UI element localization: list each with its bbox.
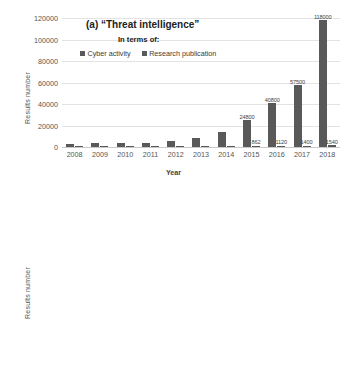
x-axis-tick-label: 2012 [163,150,188,159]
bar-group [62,18,87,147]
bar-cyber-activity [66,144,74,147]
bar-group: 24800862 [239,18,264,147]
x-axis-tick-label: 2013 [188,150,213,159]
y-axis-tick-label: 60000 [38,78,58,87]
legend-label: Research publication [149,49,216,58]
bar-value-label: 40800 [265,97,280,103]
legend-item: Cyber activity [80,49,131,58]
legend-swatch-icon [142,51,147,56]
bar-research-publication [227,146,235,147]
bar-research-publication: 862 [252,146,260,147]
bar-research-publication [100,146,108,147]
y-axis-tick-label: 0 [54,143,58,152]
y-axis-tick-label: 80000 [38,57,58,66]
bar-research-publication: 1540 [328,145,336,147]
plot-area-b: Results number 0200040006000800010000120… [0,195,347,390]
y-axis-tick-label: 120000 [34,14,58,23]
y-axis-tick-label: 100000 [34,35,58,44]
x-axis-tick-label: 2010 [113,150,138,159]
bar-cyber-activity: 24800 [243,120,251,147]
bars-region-a: 248008624080011205750014001180001540 [62,18,340,147]
gridline [62,147,340,148]
chart-title-a: (a) “Threat intelligence” [86,19,199,30]
legend-swatch-icon [80,51,85,56]
x-axis-ticks-a: 2008200920102011201220132014201520162017… [62,150,340,159]
x-axis-tick-label: 2018 [315,150,340,159]
bar-cyber-activity [142,143,150,148]
x-axis-tick-label: 2016 [264,150,289,159]
bar-value-label: 57500 [290,79,305,85]
bar-cyber-activity [192,138,200,147]
x-axis-tick-label: 2009 [87,150,112,159]
bar-cyber-activity [218,132,226,147]
bar-cyber-activity: 57500 [294,85,302,147]
chart-panel-a: Results number 0200004000060000800001000… [0,0,347,195]
bar-group [214,18,239,147]
bar-cyber-activity [91,143,99,147]
bar-group: 1180001540 [315,18,340,147]
bar-cyber-activity: 118000 [319,20,327,147]
bar-research-publication [201,146,209,147]
bar-value-label: 1120 [275,139,287,145]
x-axis-tick-label: 2014 [214,150,239,159]
bar-value-label: 118000 [314,14,332,20]
bar-research-publication: 1400 [303,146,311,148]
chart-panel-b: Results number 0200040006000800010000120… [0,195,347,390]
bar-value-label: 24800 [239,114,254,120]
bar-research-publication: 1120 [277,146,285,147]
bar-series-a: 248008624080011205750014001180001540 [62,18,340,147]
bar-research-publication [126,146,134,147]
y-axis-label-b: Results number [24,267,31,319]
x-axis-label-a: Year [0,168,347,177]
bar-research-publication [176,146,184,147]
plot-area-a: Results number 0200004000060000800001000… [0,0,347,195]
bar-group: 575001400 [289,18,314,147]
y-axis-tick-label: 20000 [38,121,58,130]
bar-value-label: 862 [251,139,260,145]
y-axis-tick-label: 40000 [38,100,58,109]
bar-group [87,18,112,147]
bar-research-publication [151,146,159,147]
bar-group: 408001120 [264,18,289,147]
bar-cyber-activity [167,141,175,147]
y-axis-ticks-a: 020000400006000080000100000120000 [14,18,58,147]
x-axis-tick-label: 2008 [62,150,87,159]
chart-subtitle-a: In terms of: [118,35,159,44]
bar-cyber-activity [117,143,125,147]
bar-value-label: 1540 [326,139,338,145]
bar-value-label: 1400 [300,139,312,145]
bar-research-publication [75,146,83,147]
x-axis-tick-label: 2011 [138,150,163,159]
legend-a: Cyber activityResearch publication [80,49,216,58]
legend-item: Research publication [142,49,217,58]
bar-group [163,18,188,147]
x-axis-tick-label: 2015 [239,150,264,159]
legend-label: Cyber activity [88,49,131,58]
x-axis-tick-label: 2017 [289,150,314,159]
bar-group [188,18,213,147]
